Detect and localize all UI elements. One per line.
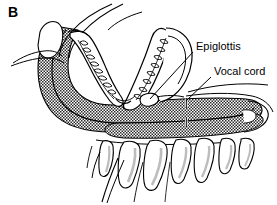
annotation-vocal-cord: Vocal cord bbox=[214, 66, 265, 77]
vertebra-body bbox=[239, 138, 254, 169]
dental-arch bbox=[68, 28, 192, 110]
cervical-vertebrae bbox=[87, 138, 254, 203]
panel-label-b: B bbox=[8, 5, 18, 19]
vertebra-body bbox=[144, 140, 168, 190]
vertebra-body bbox=[194, 138, 214, 182]
anatomy-illustration bbox=[0, 0, 277, 205]
vertebra-body bbox=[99, 141, 113, 177]
leader-line-vocal-cord bbox=[186, 77, 211, 101]
vertebra-body bbox=[171, 139, 191, 183]
vertebra-body bbox=[219, 138, 235, 174]
anatomical-figure-panel-b: B Epiglottis Vocal cord bbox=[0, 0, 277, 205]
annotation-epiglottis: Epiglottis bbox=[196, 41, 241, 52]
lip-nose-profile bbox=[11, 21, 64, 66]
